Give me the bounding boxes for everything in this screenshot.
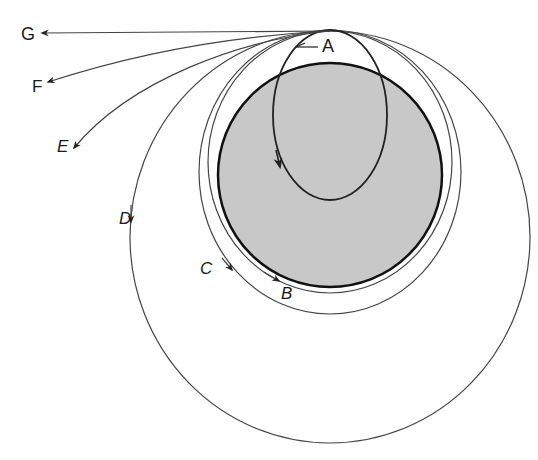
trajectory-g (42, 31, 330, 33)
label-a: A (322, 37, 334, 55)
label-b: B (281, 285, 292, 302)
label-c: C (200, 260, 212, 277)
label-d: D (119, 210, 131, 227)
label-e: E (57, 138, 68, 155)
orbit-diagram (0, 0, 538, 460)
label-f: F (32, 78, 42, 95)
label-g: G (21, 25, 35, 43)
earth (218, 63, 442, 287)
